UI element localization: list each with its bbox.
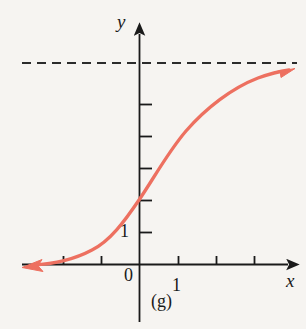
sigmoid-curve <box>33 70 289 265</box>
origin-tick-label: 0 <box>124 266 133 284</box>
y-axis-label: y <box>117 12 125 31</box>
panel-label: (g) <box>151 292 172 310</box>
x-axis-label: x <box>286 271 294 290</box>
x-tick-label-1: 1 <box>172 276 181 294</box>
plot-canvas <box>0 0 306 329</box>
graph-figure: y x 0 1 1 (g) <box>0 0 306 329</box>
y-axis-ticks <box>140 105 152 233</box>
y-tick-label-1: 1 <box>120 222 129 240</box>
